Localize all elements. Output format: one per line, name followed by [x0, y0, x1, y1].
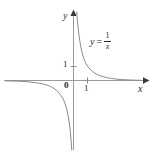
equation-annotation: y = 1 x [90, 32, 111, 51]
x-axis-tick-label-1: 1 [84, 84, 89, 93]
x-axis-label: x [138, 84, 142, 94]
equation-operator: = [96, 37, 102, 47]
y-axis-label: y [63, 11, 67, 21]
curve-branch-negative [6, 81, 72, 150]
y-axis-tick-label-1: 1 [63, 60, 68, 69]
equation-lhs: y [90, 37, 94, 47]
plot-canvas [0, 0, 152, 153]
function-graph-figure: y x 0 1 1 y = 1 x [0, 0, 152, 153]
origin-label: 0 [64, 81, 69, 90]
fraction-denominator: x [105, 42, 111, 51]
y-axis-arrowhead [70, 10, 76, 17]
equation-fraction: 1 x [104, 32, 111, 51]
fraction-numerator: 1 [105, 32, 111, 41]
x-axis-arrowhead [143, 77, 150, 83]
